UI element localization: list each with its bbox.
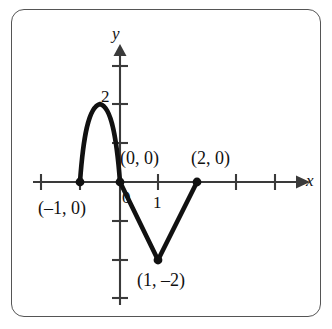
x-tick-label-1: 1 xyxy=(153,194,162,211)
annotation-minimum: (1, –2) xyxy=(137,271,185,289)
point-marker-origin xyxy=(116,178,125,187)
annotation-origin: (0, 0) xyxy=(120,149,159,167)
parabolic-arc-curve xyxy=(80,104,120,182)
y-tick-label-2: 2 xyxy=(101,88,110,105)
origin-label: 0 xyxy=(122,189,131,206)
point-marker-root-right xyxy=(193,178,202,187)
point-marker-root-left xyxy=(76,178,85,187)
x-axis-label: x xyxy=(306,172,314,189)
point-marker-minimum xyxy=(154,256,163,265)
x-axis xyxy=(33,174,310,190)
annotation-root-right: (2, 0) xyxy=(191,149,230,167)
y-axis-label: y xyxy=(112,25,120,42)
annotation-root-left: (–1, 0) xyxy=(38,199,86,217)
